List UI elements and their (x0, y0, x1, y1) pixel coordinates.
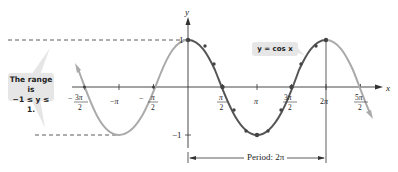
curve-right-arrow (366, 110, 373, 119)
svg-text:−: − (68, 94, 73, 103)
range-callout-line2: −1 ≤ y ≤ 1. (8, 95, 54, 115)
period-arrow-left (189, 156, 196, 160)
svg-text:2π: 2π (320, 97, 329, 106)
curve-left-arrow (75, 63, 81, 73)
equation-callout: y = cos x (252, 42, 298, 56)
svg-text:2: 2 (220, 103, 224, 112)
x-tick-labels: − 3π 2 −π − π 2 π 2 π 3π 2 2π 5π 2 (68, 93, 368, 112)
svg-text:π: π (151, 93, 155, 102)
svg-text:3π: 3π (75, 93, 83, 102)
svg-text:3π: 3π (284, 93, 292, 102)
svg-text:5π: 5π (355, 93, 363, 102)
svg-text:π: π (254, 97, 259, 106)
svg-text:2: 2 (151, 103, 155, 112)
y-axis-label: y (184, 7, 189, 17)
cosine-graph: y x 1 −1 − 3π 2 −π − π 2 π 2 π 3π 2 2π 5… (0, 0, 398, 172)
y-axis-arrow (186, 17, 191, 25)
x-axis-arrow (375, 85, 383, 90)
range-callout: The range is −1 ≤ y ≤ 1. (8, 73, 54, 101)
svg-text:2: 2 (358, 103, 362, 112)
svg-text:2: 2 (288, 103, 292, 112)
y-tick-neg1: −1 (172, 130, 182, 140)
svg-text:π: π (219, 93, 223, 102)
range-callout-line1: The range is (8, 75, 54, 95)
x-axis-label: x (385, 83, 390, 93)
y-tick-1: 1 (179, 35, 184, 45)
cosine-curve-left (78, 40, 188, 135)
svg-text:2: 2 (78, 103, 82, 112)
range-callout-pointer (31, 48, 50, 75)
svg-text:−: − (139, 94, 144, 103)
period-arrow-right (318, 156, 325, 160)
svg-text:−π: −π (110, 97, 120, 106)
period-label: Period: 2π (244, 152, 287, 162)
